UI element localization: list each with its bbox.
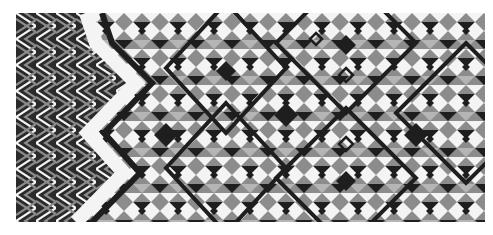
textile-photo bbox=[16, 13, 485, 222]
